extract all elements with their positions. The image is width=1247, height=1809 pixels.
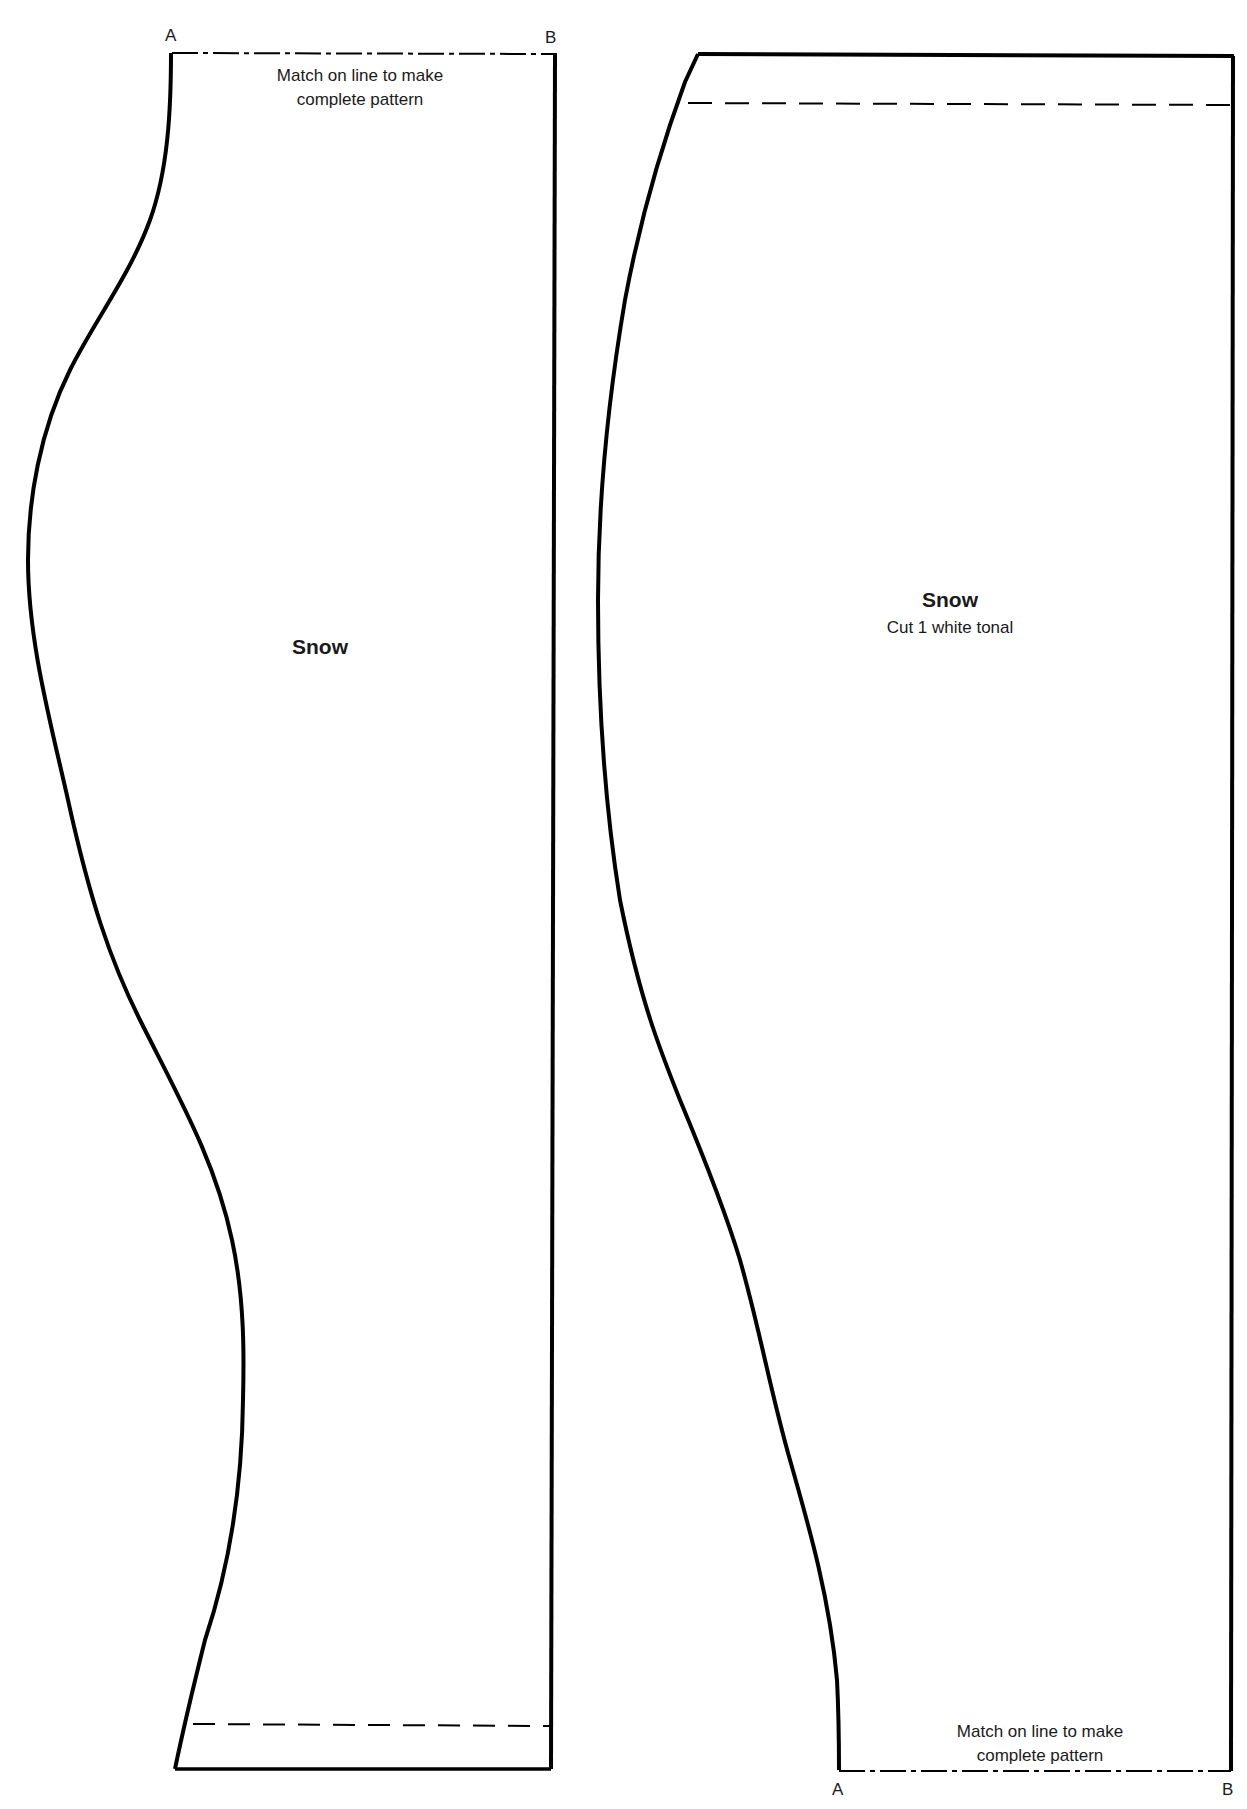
left-hem-dashed-line [193,1724,551,1726]
right-curved-edge [598,54,839,1770]
right-piece-title: Snow [880,588,1020,612]
right-cut-instruction: Cut 1 white tonal [850,618,1050,638]
left-piece-title: Snow [260,635,380,659]
left-match-note-line-2: complete pattern [240,88,480,112]
left-corner-b-label: B [545,28,556,48]
pattern-drawing [0,0,1247,1809]
right-pattern-piece [598,54,1234,1771]
left-pattern-piece [28,53,555,1769]
right-straight-edge [1231,56,1233,1771]
left-match-line [172,53,553,54]
right-match-note-line-2: complete pattern [920,1744,1160,1768]
left-corner-a-label: A [165,26,176,46]
right-hem-dashed-line [688,103,1232,105]
right-match-note: Match on line to make complete pattern [920,1720,1160,1768]
right-match-note-line-1: Match on line to make [920,1720,1160,1744]
left-straight-edge [551,53,555,1769]
right-corner-b-label: B [1222,1780,1233,1800]
left-match-note: Match on line to make complete pattern [240,64,480,112]
right-corner-a-label: A [832,1780,843,1800]
left-curved-edge [28,53,244,1769]
left-match-note-line-1: Match on line to make [240,64,480,88]
right-top-edge [698,54,1234,56]
